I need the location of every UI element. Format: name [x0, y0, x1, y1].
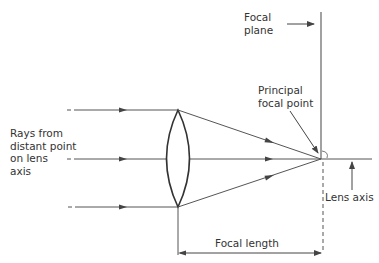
incoming-rays: [67, 108, 178, 210]
focal-plane-label: Focal plane: [244, 11, 273, 36]
lens-axis-label: Lens axis: [325, 191, 374, 204]
arrow-icon: [119, 205, 127, 210]
rays-label-line: Rays from: [10, 127, 77, 140]
focal-plane-label-line: Focal: [244, 11, 273, 24]
arrow-icon: [265, 138, 275, 144]
arrow-icon: [265, 175, 275, 181]
principal-label-line: Principal: [258, 84, 313, 97]
principal-focal-point-arrow: [290, 111, 318, 153]
focal-point-arc: [322, 151, 327, 158]
principal-focal-point-label: Principal focal point: [258, 84, 313, 109]
rays-label-line: on lens: [10, 152, 77, 165]
rays-label-line: axis: [10, 165, 77, 178]
focal-length-label: Focal length: [215, 237, 279, 250]
focal-plane-label-line: plane: [244, 24, 273, 37]
arrow-icon: [119, 157, 127, 162]
convex-lens: [167, 110, 190, 207]
arrow-icon: [265, 157, 273, 162]
arrow-icon: [119, 108, 127, 113]
principal-label-line: focal point: [258, 97, 313, 110]
rays-label: Rays from distant point on lens axis: [10, 127, 77, 177]
arrow-icon: [178, 251, 186, 256]
rays-label-line: distant point: [10, 140, 77, 153]
